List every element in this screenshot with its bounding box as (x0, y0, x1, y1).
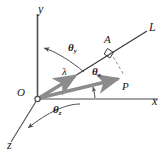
point-p-label: P (122, 81, 129, 92)
x-axis-label: x (152, 95, 157, 107)
theta-x-subscript: x (98, 71, 101, 78)
perpendicular-dashed-line (111, 53, 125, 76)
vectors-group (39, 76, 118, 98)
theta-x-label: θx (92, 66, 101, 79)
z-axis-label: z (7, 139, 12, 151)
line-l-label: L (149, 21, 156, 33)
theta-z-subscript: z (59, 109, 62, 116)
figure-canvas (0, 0, 166, 161)
point-a-label: A (104, 34, 111, 45)
op-vector-arrow (39, 79, 118, 98)
lambda-vector-label: λ (62, 66, 67, 77)
origin-label: O (17, 87, 25, 98)
z-axis-line (11, 99, 38, 142)
theta-x-arc (93, 87, 95, 98)
direction-angles-figure: y x z O A P L λ θy θx θz (0, 0, 166, 161)
theta-y-label: θy (68, 42, 77, 55)
y-axis-label: y (38, 3, 43, 15)
axes-group (11, 14, 158, 142)
theta-y-subscript: y (74, 47, 77, 54)
origin-dot (35, 96, 40, 101)
theta-z-label: θz (53, 104, 61, 117)
